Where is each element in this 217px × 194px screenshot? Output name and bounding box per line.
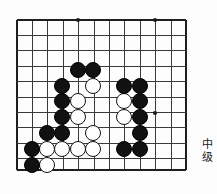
go-diagram-page: 中 级 — [0, 0, 217, 194]
level-caption-char-2: 级 — [199, 151, 215, 164]
star-point — [153, 18, 157, 22]
star-point — [153, 111, 157, 115]
star-point — [76, 18, 80, 22]
level-caption: 中 级 — [199, 138, 215, 164]
level-caption-char-1: 中 — [199, 138, 215, 151]
